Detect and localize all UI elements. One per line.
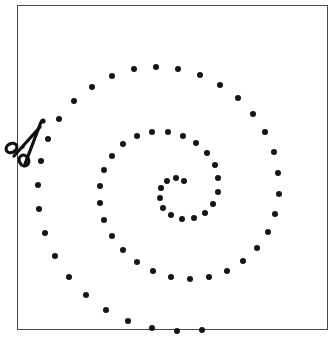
scissors-cut-marker <box>0 0 335 337</box>
scissors-icon <box>0 0 335 337</box>
figure-canvas <box>0 0 335 337</box>
